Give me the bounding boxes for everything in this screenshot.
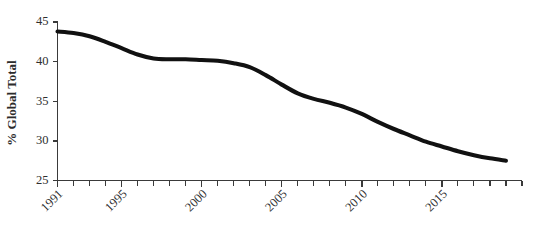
x-tick-label: 2005	[262, 187, 290, 215]
x-tick-label: 2015	[422, 187, 450, 215]
y-tick-label: 40	[36, 54, 49, 68]
y-tick-label: 25	[36, 173, 49, 187]
x-tick-label: 2010	[342, 187, 370, 215]
y-tick-label: 30	[36, 133, 49, 147]
x-axis-labels: 199119952000200520102015	[38, 187, 450, 215]
x-axis-ticks	[58, 181, 523, 187]
chart-container: % Global Total 2530354045 19911995200020…	[0, 0, 545, 239]
y-axis-title-group: % Global Total	[4, 60, 19, 146]
line-chart: % Global Total 2530354045 19911995200020…	[0, 0, 545, 239]
x-tick-label: 1995	[102, 187, 130, 215]
x-tick-label: 2000	[182, 187, 210, 215]
y-tick-label: 45	[36, 14, 49, 28]
data-series-line	[58, 32, 506, 161]
y-axis-title: % Global Total	[4, 60, 19, 146]
y-axis-ticks: 2530354045	[36, 14, 58, 187]
x-tick-label: 1991	[38, 187, 66, 215]
y-tick-label: 35	[36, 94, 49, 108]
